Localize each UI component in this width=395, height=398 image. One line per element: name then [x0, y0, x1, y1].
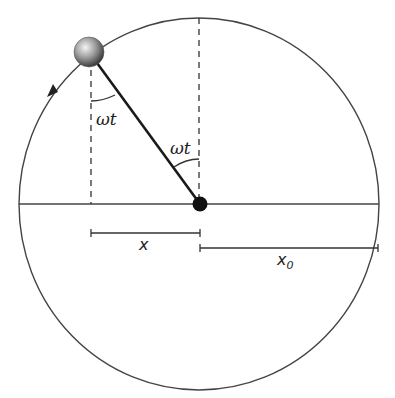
x-label: x [138, 235, 149, 254]
angle-arc-center [174, 159, 199, 167]
x0-label-subscript: 0 [286, 259, 293, 272]
angle-arc-left [91, 95, 115, 101]
circular-motion-diagram: ωt ωt x x0 [0, 0, 395, 398]
x0-label: x0 [276, 250, 293, 272]
x0-measurement-bar [200, 244, 378, 252]
angle-label-center: ωt [170, 138, 191, 158]
pivot-point [193, 197, 208, 212]
angle-label-left: ωt [96, 109, 117, 129]
x0-label-base: x [276, 250, 287, 269]
ball [74, 37, 104, 67]
